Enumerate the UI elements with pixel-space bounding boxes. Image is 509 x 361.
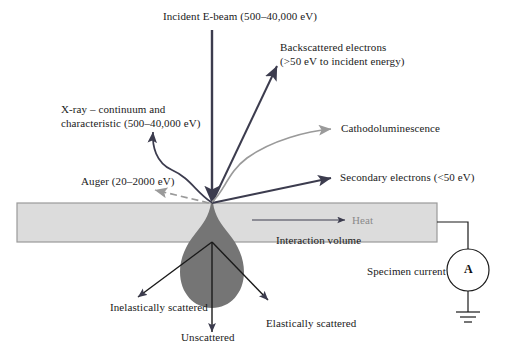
xray-label-line1: X-ray – continuum and (61, 103, 165, 116)
secondary-electrons-arrow (212, 178, 331, 203)
backscattered-electrons-label-line2: (>50 eV to incident energy) (280, 55, 405, 68)
backscattered-electrons-label-line1: Backscattered electrons (280, 41, 386, 54)
interaction-volume-label: Interaction volume (276, 234, 361, 247)
inelastically-scattered-label: Inelastically scattered (110, 301, 208, 314)
secondary-electrons-label: Secondary electrons (<50 eV) (340, 171, 475, 184)
heat-label: Heat (352, 214, 373, 227)
specimen-current-label: Specimen current (367, 265, 446, 278)
ammeter-label: A (464, 263, 473, 276)
figure-canvas: Incident E-beam (500–40,000 eV) Backscat… (0, 0, 509, 361)
xray-label-line2: characteristic (500–40,000 eV) (61, 117, 201, 130)
backscattered-electrons-arrow (212, 66, 277, 203)
ground-icon (456, 312, 480, 322)
incident-beam-label: Incident E-beam (500–40,000 eV) (163, 10, 317, 23)
specimen-current-wire (437, 222, 468, 249)
unscattered-label: Unscattered (181, 331, 235, 344)
auger-label: Auger (20–2000 eV) (81, 175, 174, 188)
elastically-scattered-label: Elastically scattered (266, 317, 356, 330)
cathodoluminescence-label: Cathodoluminescence (341, 122, 440, 135)
auger-dashed-arrow (155, 190, 209, 203)
